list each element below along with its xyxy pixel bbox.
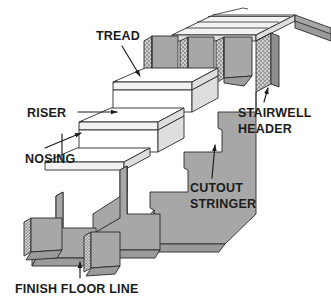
- stairwell-header: [256, 33, 279, 92]
- leader-stairwell-header: [264, 88, 268, 102]
- label-nosing: NOSING: [25, 152, 76, 166]
- leader-tread: [122, 46, 140, 76]
- cutout-stringer: [24, 218, 62, 260]
- label-stairwell-header-line2: HEADER: [238, 122, 292, 136]
- lower-stringer-group: [24, 166, 160, 276]
- step-top: [113, 68, 218, 112]
- label-cutout-stringer-line2: STRINGER: [190, 197, 256, 211]
- leader-nosing: [45, 133, 81, 148]
- diagram-canvas: TREAD RISER NOSING STAIRWELL HEADER CUTO…: [0, 0, 331, 302]
- label-riser: RISER: [27, 106, 66, 120]
- step-second: [79, 108, 184, 152]
- label-finish-floor-line: FINISH FLOOR LINE: [15, 282, 139, 296]
- label-tread: TREAD: [96, 29, 140, 43]
- floor-joist: [216, 37, 252, 86]
- cutout-stringer: [84, 232, 120, 276]
- stair-construction-diagram: TREAD RISER NOSING STAIRWELL HEADER CUTO…: [0, 0, 331, 302]
- rim-joist-right: [295, 15, 331, 41]
- label-stairwell-header-line1: STAIRWELL: [238, 106, 312, 120]
- label-cutout-stringer-line1: CUTOUT: [190, 181, 243, 195]
